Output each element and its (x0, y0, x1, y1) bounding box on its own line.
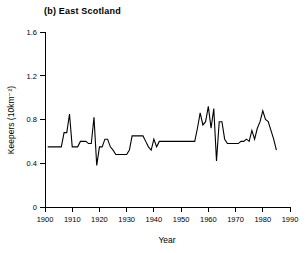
data-series-line (48, 106, 277, 165)
x-tick-label: 1900 (37, 215, 54, 224)
x-axis-ticks: 1900191019201930194019501960197019801990 (37, 207, 299, 224)
x-tick-label: 1970 (227, 215, 244, 224)
y-tick-label: 1.6 (27, 28, 37, 37)
y-axis-ticks: 00.40.81.21.6 (27, 28, 45, 212)
line-chart-plot: 00.40.81.21.6 19001910192019301940195019… (0, 0, 308, 253)
y-tick-label: 0.8 (27, 115, 37, 124)
x-axis-label: Year (158, 235, 175, 245)
y-tick-label: 1.2 (27, 72, 37, 81)
x-tick-label: 1930 (118, 215, 135, 224)
x-tick-label: 1990 (282, 215, 299, 224)
x-tick-label: 1910 (64, 215, 81, 224)
x-tick-label: 1950 (173, 215, 190, 224)
x-tick-label: 1960 (200, 215, 217, 224)
axes (45, 32, 290, 207)
x-tick-label: 1920 (91, 215, 108, 224)
chart-figure: (b) East Scotland 00.40.81.21.6 19001910… (0, 0, 308, 253)
y-tick-label: 0.4 (27, 159, 37, 168)
x-tick-label: 1980 (254, 215, 271, 224)
y-tick-label: 0 (33, 203, 37, 212)
x-tick-label: 1940 (146, 215, 163, 224)
y-axis-label: Keepers (10km⁻²) (6, 86, 16, 154)
